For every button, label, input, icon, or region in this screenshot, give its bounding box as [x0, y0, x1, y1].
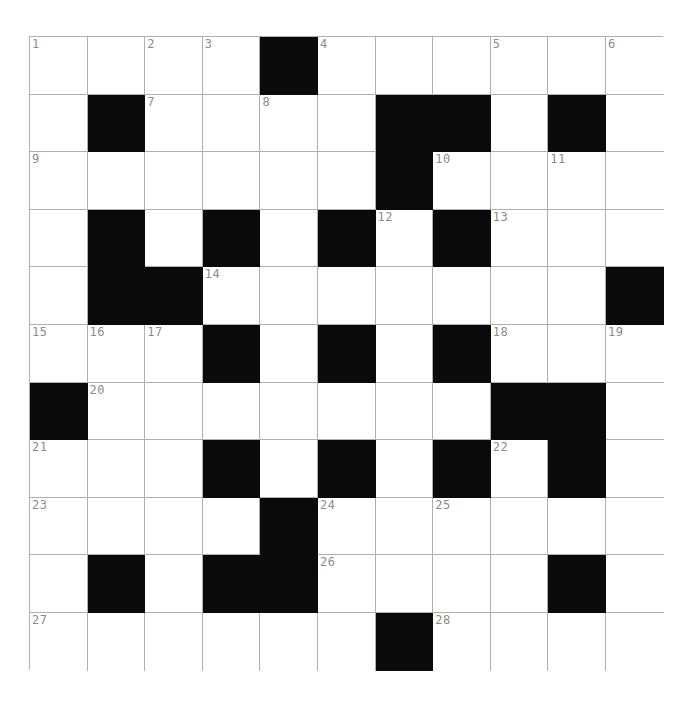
- crossword-cell[interactable]: [145, 152, 203, 210]
- crossword-cell[interactable]: [203, 498, 261, 556]
- crossword-cell[interactable]: 8: [260, 95, 318, 153]
- crossword-cell[interactable]: [376, 440, 434, 498]
- crossword-cell[interactable]: [548, 37, 606, 95]
- crossword-cell[interactable]: 13: [491, 210, 549, 268]
- crossword-cell[interactable]: [491, 152, 549, 210]
- crossword-cell[interactable]: [30, 555, 88, 613]
- crossword-cell[interactable]: [318, 383, 376, 441]
- crossword-cell[interactable]: [260, 383, 318, 441]
- crossword-cell[interactable]: [491, 613, 549, 671]
- crossword-block-cell: [203, 210, 261, 268]
- crossword-cell[interactable]: 27: [30, 613, 88, 671]
- crossword-cell[interactable]: [318, 267, 376, 325]
- crossword-cell[interactable]: [491, 95, 549, 153]
- crossword-cell[interactable]: 10: [433, 152, 491, 210]
- crossword-grid[interactable]: 1234567891011121314151617181920212223242…: [29, 36, 663, 670]
- crossword-cell[interactable]: [88, 498, 146, 556]
- crossword-cell[interactable]: [30, 267, 88, 325]
- crossword-cell[interactable]: [145, 613, 203, 671]
- crossword-cell[interactable]: 26: [318, 555, 376, 613]
- crossword-cell[interactable]: [318, 613, 376, 671]
- crossword-cell[interactable]: [203, 95, 261, 153]
- crossword-block-cell: [260, 555, 318, 613]
- crossword-cell[interactable]: [145, 440, 203, 498]
- crossword-cell[interactable]: [30, 210, 88, 268]
- crossword-block-cell: [30, 383, 88, 441]
- crossword-cell[interactable]: 17: [145, 325, 203, 383]
- crossword-cell[interactable]: [491, 498, 549, 556]
- crossword-cell[interactable]: 4: [318, 37, 376, 95]
- crossword-cell[interactable]: [376, 383, 434, 441]
- crossword-cell[interactable]: 19: [606, 325, 664, 383]
- crossword-cell[interactable]: [260, 210, 318, 268]
- crossword-cell[interactable]: 14: [203, 267, 261, 325]
- crossword-cell[interactable]: [606, 95, 664, 153]
- crossword-cell[interactable]: [376, 325, 434, 383]
- crossword-cell[interactable]: [491, 555, 549, 613]
- crossword-cell[interactable]: [433, 383, 491, 441]
- crossword-cell[interactable]: [260, 152, 318, 210]
- crossword-cell[interactable]: [606, 152, 664, 210]
- crossword-cell[interactable]: [606, 498, 664, 556]
- crossword-cell[interactable]: 18: [491, 325, 549, 383]
- crossword-cell[interactable]: 3: [203, 37, 261, 95]
- crossword-block-cell: [606, 267, 664, 325]
- crossword-cell[interactable]: 12: [376, 210, 434, 268]
- crossword-block-cell: [548, 555, 606, 613]
- crossword-cell[interactable]: 7: [145, 95, 203, 153]
- crossword-cell[interactable]: [433, 267, 491, 325]
- crossword-cell[interactable]: [548, 325, 606, 383]
- crossword-cell[interactable]: [318, 95, 376, 153]
- crossword-cell[interactable]: [88, 152, 146, 210]
- crossword-cell[interactable]: [318, 152, 376, 210]
- crossword-cell[interactable]: 21: [30, 440, 88, 498]
- crossword-cell[interactable]: [260, 267, 318, 325]
- crossword-cell[interactable]: [376, 498, 434, 556]
- crossword-cell[interactable]: [606, 210, 664, 268]
- crossword-cell[interactable]: [260, 613, 318, 671]
- crossword-cell[interactable]: [88, 613, 146, 671]
- crossword-cell[interactable]: [145, 383, 203, 441]
- crossword-cell[interactable]: [433, 555, 491, 613]
- crossword-cell[interactable]: [88, 37, 146, 95]
- crossword-cell[interactable]: 5: [491, 37, 549, 95]
- crossword-clue-number: 12: [378, 210, 393, 225]
- crossword-cell[interactable]: [88, 440, 146, 498]
- crossword-cell[interactable]: [433, 37, 491, 95]
- crossword-cell[interactable]: [376, 267, 434, 325]
- crossword-cell[interactable]: 23: [30, 498, 88, 556]
- crossword-cell[interactable]: [203, 383, 261, 441]
- crossword-cell[interactable]: [376, 555, 434, 613]
- crossword-cell[interactable]: 15: [30, 325, 88, 383]
- crossword-cell[interactable]: [260, 440, 318, 498]
- crossword-cell[interactable]: [606, 613, 664, 671]
- crossword-cell[interactable]: [145, 498, 203, 556]
- crossword-cell[interactable]: 11: [548, 152, 606, 210]
- crossword-cell[interactable]: 28: [433, 613, 491, 671]
- crossword-cell[interactable]: [548, 498, 606, 556]
- crossword-cell[interactable]: [203, 613, 261, 671]
- crossword-cell[interactable]: 16: [88, 325, 146, 383]
- crossword-cell[interactable]: 9: [30, 152, 88, 210]
- crossword-cell[interactable]: 25: [433, 498, 491, 556]
- crossword-cell[interactable]: [145, 555, 203, 613]
- crossword-cell[interactable]: [376, 37, 434, 95]
- crossword-cell[interactable]: [203, 152, 261, 210]
- crossword-cell[interactable]: 20: [88, 383, 146, 441]
- crossword-cell[interactable]: [548, 210, 606, 268]
- crossword-cell[interactable]: [548, 267, 606, 325]
- crossword-cell[interactable]: 22: [491, 440, 549, 498]
- crossword-cell[interactable]: [606, 383, 664, 441]
- crossword-cell[interactable]: [260, 325, 318, 383]
- crossword-cell[interactable]: [548, 613, 606, 671]
- crossword-cell[interactable]: [145, 210, 203, 268]
- crossword-cell[interactable]: 1: [30, 37, 88, 95]
- crossword-cell[interactable]: [30, 95, 88, 153]
- crossword-cell[interactable]: [606, 555, 664, 613]
- crossword-cell[interactable]: 6: [606, 37, 664, 95]
- crossword-cell[interactable]: 24: [318, 498, 376, 556]
- crossword-cell[interactable]: [606, 440, 664, 498]
- crossword-cell[interactable]: [491, 267, 549, 325]
- crossword-block-cell: [145, 267, 203, 325]
- crossword-cell[interactable]: 2: [145, 37, 203, 95]
